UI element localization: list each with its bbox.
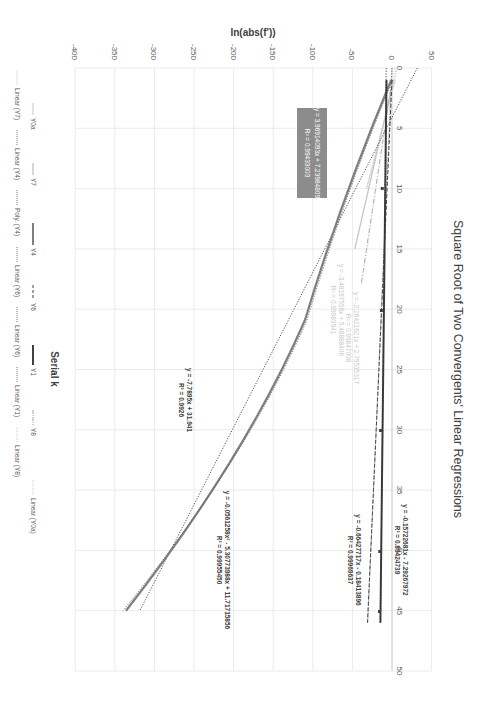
svg-text:50: 50 xyxy=(427,51,436,60)
svg-text:R² = 0.99433003: R² = 0.99433003 xyxy=(304,129,311,178)
svg-text:-300: -300 xyxy=(149,44,158,61)
svg-text:y = -2.26421621x + 2.79535317: y = -2.26421621x + 2.79535317 xyxy=(352,292,360,385)
svg-text:10: 10 xyxy=(395,184,404,193)
svg-text:Y6: Y6 xyxy=(30,303,37,311)
svg-text:Y4: Y4 xyxy=(30,248,37,256)
legend-row-2: Linear (Y7) Linear (Y4) Poly. (Y4) Linea… xyxy=(13,70,21,477)
svg-text:-50: -50 xyxy=(347,48,356,60)
svg-text:35: 35 xyxy=(395,486,404,495)
svg-text:y = 3.96914093x + 7.23984809: y = 3.96914093x + 7.23984809 xyxy=(313,108,321,198)
svg-text:y = -0.66427717x - 0.18413896: y = -0.66427717x - 0.18413896 xyxy=(354,514,362,606)
svg-text:R² = 0.99955450: R² = 0.99955450 xyxy=(216,536,223,585)
svg-text:50: 50 xyxy=(395,667,404,676)
svg-text:Linear (Y0a): Linear (Y0a) xyxy=(29,498,37,534)
svg-text:Linear (Y1): Linear (Y1) xyxy=(13,385,21,417)
y0a-equation-box xyxy=(297,108,327,198)
svg-text:Linear (Y6): Linear (Y6) xyxy=(13,325,21,357)
svg-text:R² = 0.99969637: R² = 0.99969637 xyxy=(347,536,354,585)
svg-text:y = -3.48197558x + 5.46888406: y = -3.48197558x + 5.46888406 xyxy=(337,264,345,357)
y-axis-title: ln(abs(f')) xyxy=(230,27,275,38)
svg-text:R² = 0.9926: R² = 0.9926 xyxy=(178,383,185,418)
svg-text:Linear (Y4): Linear (Y4) xyxy=(13,148,21,180)
svg-text:-250: -250 xyxy=(189,44,198,61)
svg-text:-200: -200 xyxy=(229,44,238,61)
svg-text:Y1: Y1 xyxy=(30,368,37,376)
chart-title: Square Root of Two Convergents' Linear R… xyxy=(451,220,465,518)
svg-text:Y7: Y7 xyxy=(30,178,37,186)
svg-text:-150: -150 xyxy=(268,44,277,61)
svg-text:25: 25 xyxy=(395,365,404,374)
legend: Y0a Y7 Y4 Y6 Y1 Y8 Linear (Y0a) Linear (… xyxy=(13,70,37,534)
svg-text:0: 0 xyxy=(387,56,396,61)
svg-text:-100: -100 xyxy=(308,44,317,61)
svg-text:R² = 0.99847008: R² = 0.99847008 xyxy=(345,314,352,363)
svg-text:-400: -400 xyxy=(70,44,79,61)
svg-text:y = -0.0561258x² - 5.30773988x: y = -0.0561258x² - 5.30773988x + 11.7171… xyxy=(223,491,231,630)
svg-text:R² = 0.89424739: R² = 0.89424739 xyxy=(394,526,401,575)
svg-text:y = -7.7895x + 31.941: y = -7.7895x + 31.941 xyxy=(185,368,193,432)
svg-text:Linear (Y7): Linear (Y7) xyxy=(13,88,21,120)
svg-text:45: 45 xyxy=(395,606,404,615)
svg-text:20: 20 xyxy=(395,305,404,314)
value-tick-labels: 50 0 -50 -100 -150 -200 -250 -300 -350 -… xyxy=(70,44,436,61)
svg-text:Y0a: Y0a xyxy=(30,118,37,130)
x-axis-title: Serial k xyxy=(49,351,60,387)
svg-text:30: 30 xyxy=(395,425,404,434)
legend-row-1: Y0a Y7 Y4 Y6 Y1 Y8 Linear (Y0a) xyxy=(29,103,37,534)
svg-text:Poly. (Y4): Poly. (Y4) xyxy=(13,208,21,236)
svg-text:Linear (Y6): Linear (Y6) xyxy=(13,265,21,297)
svg-text:-350: -350 xyxy=(110,44,119,61)
svg-text:15: 15 xyxy=(395,244,404,253)
svg-text:R² = 0.99983941: R² = 0.99983941 xyxy=(330,286,337,335)
chart: 0 5 10 15 20 25 30 35 40 45 50 50 0 -50 … xyxy=(0,0,479,702)
svg-text:Y8: Y8 xyxy=(30,428,37,436)
svg-text:y = -0.15722681x - 7.29267972: y = -0.15722681x - 7.29267972 xyxy=(401,504,409,596)
svg-text:5: 5 xyxy=(395,126,404,131)
svg-text:Linear (Y8): Linear (Y8) xyxy=(13,445,21,477)
